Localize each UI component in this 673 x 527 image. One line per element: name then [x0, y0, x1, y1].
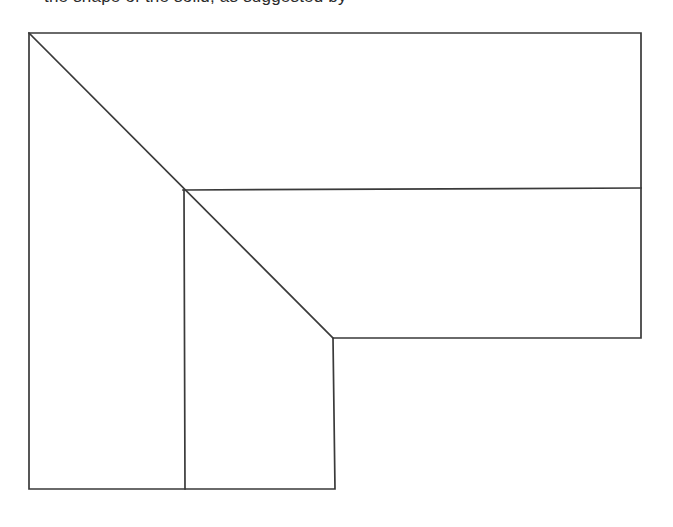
- vertical-divider-line: [184, 190, 185, 489]
- chamfer-diagonal-line: [29, 33, 333, 338]
- diagram-svg: [0, 0, 673, 527]
- horizontal-divider-line: [183, 188, 641, 190]
- outer-outline-path: [29, 33, 641, 489]
- page-canvas: the shape of the solid, as suggested by: [0, 0, 673, 527]
- figure-diagram: [0, 0, 673, 527]
